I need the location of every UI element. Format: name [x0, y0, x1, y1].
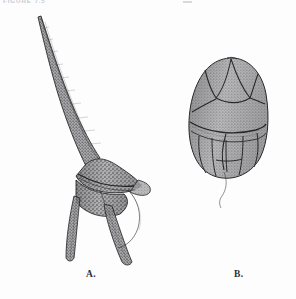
specimen-label-b: B.	[234, 269, 244, 279]
shading-theca-b	[189, 58, 268, 178]
specimen-b-drawing	[189, 57, 268, 208]
left-antapical-horn-a	[66, 196, 80, 261]
specimen-label-a: A.	[86, 269, 96, 279]
specimen-a-drawing	[38, 16, 150, 265]
figure-illustration-canvas	[0, 0, 296, 299]
apical-horn-a	[38, 16, 100, 166]
figure-plate: FIGURE 7.5	[0, 0, 296, 299]
horn-midrib-a	[41, 18, 100, 160]
